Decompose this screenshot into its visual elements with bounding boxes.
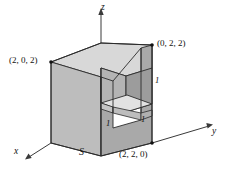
x-axis-label: x [14,147,18,157]
y-axis-label: y [212,127,216,137]
solid-figure [0,0,225,170]
y-axis-line [152,126,209,143]
front-left-face [51,62,101,156]
dimension-label-notch-depth: 1 [106,119,110,128]
vertex-dot-0-2-2 [150,43,154,47]
vertex-dot-2-2-0 [150,141,154,145]
surface-label: S [79,147,84,157]
vertex-label-0-2-2: (0, 2, 2) [157,39,186,48]
vertex-label-2-0-2: (2, 0, 2) [9,56,38,65]
z-axis-label: z [101,3,105,13]
dimension-label-notch-height: 1 [155,76,159,85]
x-axis-line [29,143,51,157]
solid-body [49,43,154,156]
vertex-label-2-2-0: (2, 2, 0) [119,150,148,159]
dimension-label-notch-width: 1 [141,115,145,124]
vertex-dot-2-0-2 [49,60,53,64]
x-axis-arrowhead [25,153,32,159]
